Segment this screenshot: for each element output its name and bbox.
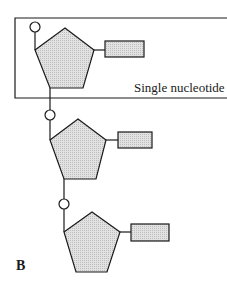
sugar-pentagon-icon <box>64 212 120 272</box>
phosphate-icon <box>30 22 40 32</box>
sugar-pentagon-icon <box>35 28 94 88</box>
base-rectangle-icon <box>131 224 169 241</box>
single-nucleotide-label: Single nucleotide <box>134 80 225 95</box>
panel-label: B <box>16 258 25 273</box>
nucleotide-diagram: Single nucleotide B <box>0 0 227 283</box>
sugar-pentagon-icon <box>50 119 106 179</box>
nucleotide-3 <box>59 199 169 272</box>
nucleotide-2 <box>45 110 152 179</box>
phosphate-icon <box>45 110 55 120</box>
nucleotide-1 <box>30 22 144 88</box>
base-rectangle-icon <box>105 41 144 57</box>
phosphate-icon <box>59 199 69 209</box>
base-rectangle-icon <box>118 132 152 148</box>
